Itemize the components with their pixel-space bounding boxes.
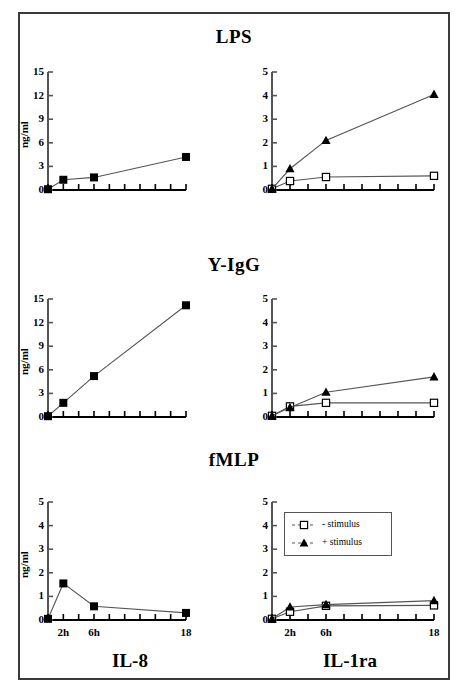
legend-label: - stimulus xyxy=(322,519,360,529)
y-tick-label: 1 xyxy=(26,589,44,601)
y-tick-label: 3 xyxy=(250,112,268,124)
y-tick-label: 12 xyxy=(26,89,44,101)
row-title-fmlp: fMLP xyxy=(0,449,468,471)
row-title-y-igg: Y-IgG xyxy=(0,254,468,276)
y-tick-label: 1 xyxy=(250,386,268,398)
y-axis-label: ng/ml xyxy=(18,551,30,578)
figure-border xyxy=(18,12,450,680)
y-tick-label: 5 xyxy=(250,65,268,77)
y-tick-label: 0 xyxy=(250,410,268,422)
y-tick-label: 4 xyxy=(250,89,268,101)
y-axis-label: ng/ml xyxy=(18,121,30,148)
column-label-il8: IL-8 xyxy=(30,650,230,672)
legend-label: + stimulus xyxy=(322,537,362,547)
y-tick-label: 1 xyxy=(250,159,268,171)
y-tick-label: 0 xyxy=(250,613,268,625)
y-tick-label: 4 xyxy=(250,316,268,328)
y-tick-label: 2 xyxy=(250,363,268,375)
y-tick-label: 15 xyxy=(26,65,44,77)
x-tick-label: 6h xyxy=(313,626,339,638)
y-tick-label: 4 xyxy=(250,519,268,531)
y-tick-label: 1 xyxy=(250,589,268,601)
y-tick-label: 3 xyxy=(26,386,44,398)
x-tick-label: 2h xyxy=(277,626,303,638)
y-tick-label: 4 xyxy=(26,519,44,531)
y-tick-label: 12 xyxy=(26,316,44,328)
y-tick-label: 2 xyxy=(250,566,268,578)
y-tick-label: 0 xyxy=(26,613,44,625)
y-tick-label: 0 xyxy=(26,183,44,195)
y-tick-label: 3 xyxy=(26,159,44,171)
y-tick-label: 5 xyxy=(26,495,44,507)
y-tick-label: 5 xyxy=(250,292,268,304)
y-tick-label: 3 xyxy=(250,542,268,554)
y-tick-label: 3 xyxy=(250,339,268,351)
y-tick-label: 15 xyxy=(26,292,44,304)
y-tick-label: 5 xyxy=(250,495,268,507)
x-tick-label: 18 xyxy=(173,626,199,638)
y-tick-label: 2 xyxy=(250,136,268,148)
x-tick-label: 6h xyxy=(81,626,107,638)
y-tick-label: 0 xyxy=(250,183,268,195)
column-label-il1ra: IL-1ra xyxy=(250,650,450,672)
figure-root: LPS Y-IgG fMLP IL-8 IL-1ra 03691215ng/ml… xyxy=(0,0,468,700)
x-tick-label: 2h xyxy=(50,626,76,638)
y-tick-label: 0 xyxy=(26,410,44,422)
y-axis-label: ng/ml xyxy=(18,348,30,375)
row-title-lps: LPS xyxy=(0,26,468,48)
x-tick-label: 18 xyxy=(421,626,447,638)
